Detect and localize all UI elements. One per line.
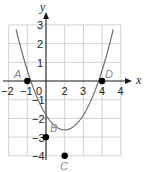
y-tick: −3 [32,132,45,144]
point-d-label: D [105,68,113,80]
x-axis-arrow-icon [125,78,132,84]
x-tick: 3 [80,85,86,97]
x-tick: −1 [20,85,33,97]
point-a-label: A [13,68,21,80]
point-c [61,153,67,159]
x-tick: 4 [99,85,105,97]
x-tick: 2 [62,85,68,97]
x-tick-labels: −2 −1 0 2 3 4 4 [1,85,124,97]
point-c-label: C [60,160,68,172]
x-tick: 4 [118,85,124,97]
x-tick: −2 [1,85,14,97]
y-tick: −2 [32,113,45,125]
y-tick: 2 [37,38,43,50]
y-tick: 3 [37,19,43,31]
x-axis-label: x [135,73,142,87]
y-axis-label: y [39,0,46,14]
point-b [43,134,49,140]
point-a [24,78,30,84]
coordinate-graph: x y −2 −1 0 2 3 4 4 3 2 1 −1 −2 −3 −4 A … [0,0,146,172]
point-b-label: B [50,122,57,134]
y-tick: −4 [32,150,45,162]
y-tick: 1 [37,57,43,69]
